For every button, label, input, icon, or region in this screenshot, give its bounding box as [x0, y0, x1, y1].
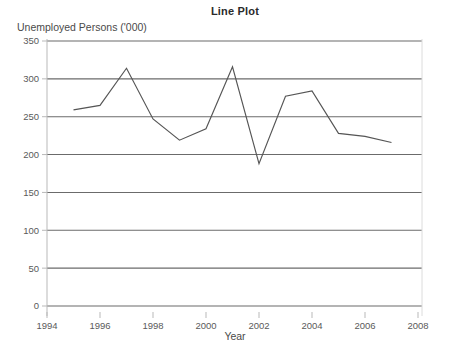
- x-tick-label: 2004: [301, 320, 322, 331]
- x-tick-label: 1996: [89, 320, 110, 331]
- y-tick-label: 350: [23, 35, 39, 46]
- data-line: [74, 67, 392, 164]
- x-tick-label: 2008: [407, 320, 428, 331]
- y-tick-label: 300: [23, 73, 39, 84]
- y-tick-label: 0: [34, 300, 39, 311]
- plot-area: 050100150200250300350 199419961998200020…: [0, 0, 454, 357]
- x-tick-label: 1998: [142, 320, 163, 331]
- axis-lines: [47, 39, 422, 316]
- gridlines: [47, 41, 422, 306]
- y-tick-label: 200: [23, 149, 39, 160]
- y-tick-label: 50: [28, 263, 39, 274]
- x-tick-label: 2000: [195, 320, 216, 331]
- x-axis-ticks: 19941996199820002002200420062008: [36, 312, 428, 331]
- x-tick-label: 2006: [354, 320, 375, 331]
- y-tick-label: 250: [23, 111, 39, 122]
- data-series: [74, 67, 392, 164]
- line-chart: Line Plot Unemployed Persons ('000) Year…: [0, 0, 454, 357]
- x-tick-label: 1994: [36, 320, 57, 331]
- x-tick-label: 2002: [248, 320, 269, 331]
- y-tick-label: 100: [23, 225, 39, 236]
- y-tick-label: 150: [23, 187, 39, 198]
- y-axis-ticks: 050100150200250300350: [23, 35, 47, 311]
